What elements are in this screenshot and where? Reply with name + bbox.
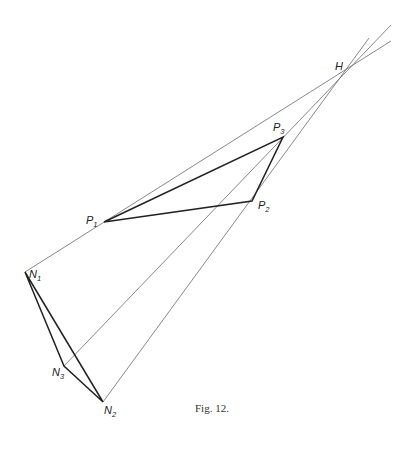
line-n2-h [103, 38, 369, 402]
label-p1: P1 [86, 214, 98, 229]
line-n1-h [25, 41, 391, 272]
label-n3: N3 [52, 366, 65, 381]
triangle-p [104, 137, 283, 222]
line-n3-h [64, 25, 391, 366]
perspective-triangles-diagram: H P1 P2 P3 N1 N3 N2 Fig. 12. [0, 0, 413, 449]
label-n2: N2 [104, 404, 117, 419]
label-h: H [335, 60, 343, 72]
figure-caption: Fig. 12. [195, 402, 229, 414]
label-p3: P3 [273, 121, 285, 136]
label-p2: P2 [258, 199, 270, 214]
